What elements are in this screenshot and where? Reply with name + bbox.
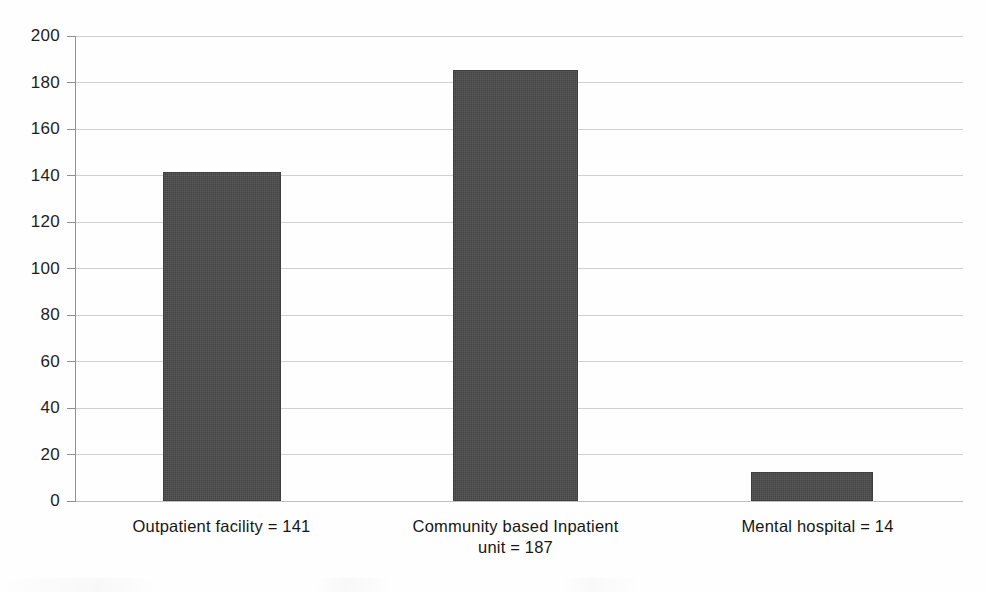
y-tick-label-120: 120 xyxy=(4,213,60,230)
y-tick-mark-60 xyxy=(67,361,76,362)
y-tick-mark-160 xyxy=(67,129,76,130)
y-tick-label-0: 0 xyxy=(4,492,60,509)
plot-area xyxy=(75,36,963,501)
y-tick-label-80: 80 xyxy=(4,306,60,323)
y-tick-label-100: 100 xyxy=(4,260,60,277)
y-tick-mark-20 xyxy=(67,454,76,455)
category-label-outpatient-facility: Outpatient facility = 141 xyxy=(104,516,339,537)
y-tick-label-60: 60 xyxy=(4,353,60,370)
bar-outpatient-facility[interactable] xyxy=(163,172,281,501)
category-label-mental-hospital: Mental hospital = 14 xyxy=(700,516,935,537)
bar-chart-figure: 200 180 160 140 120 100 80 60 40 20 0 Ou… xyxy=(0,0,986,592)
y-tick-mark-0 xyxy=(67,501,76,502)
gridline-0 xyxy=(75,501,963,502)
y-axis-line xyxy=(75,36,76,502)
y-tick-label-40: 40 xyxy=(4,399,60,416)
scan-artifact xyxy=(0,578,986,592)
bar-community-based-inpatient-unit[interactable] xyxy=(453,70,578,501)
y-tick-mark-100 xyxy=(67,268,76,269)
bar-mental-hospital[interactable] xyxy=(751,472,873,501)
y-tick-mark-200 xyxy=(67,36,76,37)
y-tick-label-200: 200 xyxy=(4,27,60,44)
y-tick-label-160: 160 xyxy=(4,120,60,137)
category-label-community-based-inpatient-unit: Community based Inpatient unit = 187 xyxy=(398,516,633,558)
y-tick-label-20: 20 xyxy=(4,446,60,463)
y-tick-mark-40 xyxy=(67,408,76,409)
y-tick-mark-180 xyxy=(67,82,76,83)
y-tick-mark-80 xyxy=(67,315,76,316)
y-tick-mark-140 xyxy=(67,175,76,176)
y-tick-label-180: 180 xyxy=(4,74,60,91)
y-tick-mark-120 xyxy=(67,222,76,223)
y-tick-label-140: 140 xyxy=(4,167,60,184)
gridline-200 xyxy=(75,36,963,37)
